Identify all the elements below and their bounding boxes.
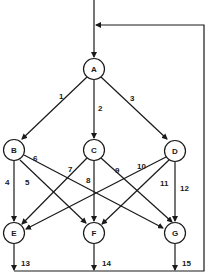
node-e-label: E <box>11 229 17 238</box>
edge-label-1: 1 <box>59 92 64 101</box>
edge-1 <box>22 77 87 139</box>
node-f-label: F <box>92 229 97 238</box>
edge-label-3: 3 <box>130 94 135 103</box>
edge-label-5: 5 <box>25 178 30 187</box>
node-b-label: B <box>11 146 17 155</box>
edge-label-13: 13 <box>21 259 30 268</box>
edge-label-2: 2 <box>98 104 103 113</box>
edge-label-14: 14 <box>102 259 111 268</box>
edge-11 <box>102 160 169 224</box>
edge-label-7: 7 <box>68 165 73 174</box>
edge-label-9: 9 <box>115 166 120 175</box>
edge-label-6: 6 <box>33 154 38 163</box>
node-g-label: G <box>172 229 178 238</box>
edge-label-8: 8 <box>86 176 91 185</box>
edge-label-12: 12 <box>180 184 189 193</box>
edge-label-15: 15 <box>182 259 191 268</box>
flow-diagram: A B C D E F G 1 2 3 4 5 6 7 8 9 10 11 12… <box>0 0 207 278</box>
edge-3 <box>101 77 167 139</box>
edge-label-11: 11 <box>160 179 169 188</box>
edge-label-4: 4 <box>5 178 10 187</box>
edge-label-10: 10 <box>137 162 146 171</box>
node-a-label: A <box>91 65 97 74</box>
node-d-label: D <box>172 147 178 156</box>
node-c-label: C <box>91 146 97 155</box>
